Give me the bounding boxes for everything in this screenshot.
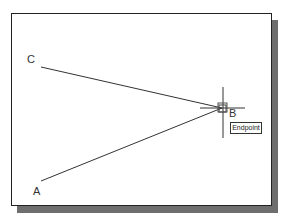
point-label-c: C bbox=[27, 54, 35, 65]
line-a-b[interactable] bbox=[41, 108, 222, 181]
line-c-b[interactable] bbox=[41, 67, 222, 108]
point-label-a: A bbox=[33, 186, 40, 197]
drawing-canvas[interactable] bbox=[0, 0, 286, 219]
snap-tooltip: Endpoint bbox=[230, 122, 262, 134]
point-label-b: B bbox=[229, 108, 236, 119]
